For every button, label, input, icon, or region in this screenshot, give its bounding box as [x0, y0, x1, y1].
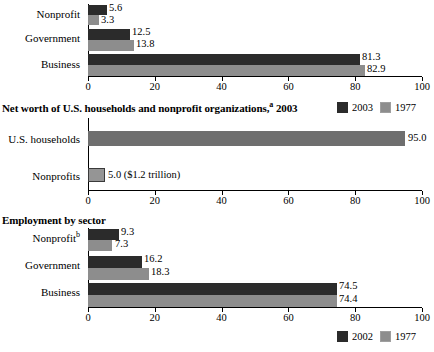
- chart1-bar-nonprofit-1977: [88, 15, 99, 25]
- chart1-value-government-2003: 12.5: [132, 26, 150, 37]
- chart3-value-government-1977: 18.3: [151, 266, 169, 277]
- chart2-plot-area: 95.0 5.0 ($1.2 trillion) 0 20 40 60 80 1…: [88, 100, 422, 213]
- chart1-ticklabel-100: 100: [402, 81, 434, 92]
- chart1-ticklabel-80: 80: [335, 81, 375, 92]
- chart3-bar-government-1977: [88, 268, 149, 280]
- chart2-ticklabel-80: 80: [335, 195, 375, 206]
- legend-item-2002: 2002: [337, 331, 373, 342]
- chart2-value-nonprofits: 5.0 ($1.2 trillion): [108, 169, 180, 180]
- chart1-value-government-1977: 13.8: [136, 38, 154, 49]
- chart1-bar-government-1977: [88, 40, 134, 51]
- chart-employment-by-sector: Employment by sector Nonprofitb Governme…: [0, 213, 434, 352]
- chart3-category-label-government: Government: [0, 259, 84, 271]
- legend-label-2002: 2002: [352, 331, 373, 342]
- chart1-value-business-2003: 81.3: [362, 51, 380, 62]
- legend-label-1977-employment: 1977: [395, 331, 416, 342]
- chart3-bar-business-1977: [88, 295, 337, 307]
- legend-item-1977-employment: 1977: [380, 331, 416, 342]
- chart2-ticklabel-40: 40: [202, 195, 242, 206]
- chart2-ticklabel-0: 0: [68, 195, 108, 206]
- chart3-category-footnote-marker: b: [76, 230, 80, 239]
- chart3-value-nonprofit-2002: 9.3: [121, 226, 134, 237]
- chart1-category-label-government: Government: [0, 32, 84, 44]
- chart1-value-business-1977: 82.9: [367, 63, 385, 74]
- chart3-ticklabel-100: 100: [402, 312, 434, 323]
- legend-swatch-dark-icon: [337, 331, 348, 342]
- chart3-ticklabel-20: 20: [135, 312, 175, 323]
- chart3-bar-government-2002: [88, 256, 142, 268]
- chart-sector-shares: Nonprofit Government Business 5.6 3.3 12…: [0, 0, 434, 100]
- chart1-category-label-business: Business: [0, 58, 84, 70]
- chart3-category-label-business: Business: [0, 286, 84, 298]
- chart1-ticklabel-60: 60: [268, 81, 308, 92]
- chart2-category-label-households: U.S. households: [0, 133, 84, 145]
- chart3-bar-nonprofit-1977: [88, 240, 112, 251]
- chart3-category-nonprofit-text: Nonprofit: [33, 232, 76, 244]
- chart2-ticklabel-20: 20: [135, 195, 175, 206]
- chart1-plot-area: 5.6 3.3 12.5 13.8 81.3 82.9 0 20 40 60 8…: [88, 0, 422, 100]
- chart3-x-axis: [88, 307, 422, 308]
- chart1-ticklabel-0: 0: [68, 81, 108, 92]
- chart-net-worth: Net worth of U.S. households and nonprof…: [0, 100, 434, 213]
- chart2-bar-us-households: [88, 131, 405, 146]
- chart1-value-nonprofit-1977: 3.3: [101, 14, 114, 25]
- chart1-bar-government-2003: [88, 29, 130, 40]
- chart3-value-business-2002: 74.5: [339, 280, 357, 291]
- chart2-ticklabel-60: 60: [268, 195, 308, 206]
- chart3-ticklabel-0: 0: [68, 312, 108, 323]
- chart3-category-label-nonprofit: Nonprofitb: [0, 232, 84, 244]
- chart3-ticklabel-60: 60: [268, 312, 308, 323]
- chart3-value-government-2002: 16.2: [144, 253, 162, 264]
- legend-2002-1977: 2002 1977: [337, 331, 416, 342]
- chart3-bar-business-2002: [88, 283, 337, 295]
- chart2-value-us-households: 95.0: [408, 132, 426, 143]
- chart1-category-label-nonprofit: Nonprofit: [0, 8, 84, 20]
- chart1-ticklabel-20: 20: [135, 81, 175, 92]
- legend-swatch-light-icon: [380, 331, 391, 342]
- chart1-ticklabel-40: 40: [202, 81, 242, 92]
- chart1-x-axis: [88, 76, 422, 77]
- chart3-ticklabel-40: 40: [202, 312, 242, 323]
- chart2-ticklabel-100: 100: [402, 195, 434, 206]
- chart1-bar-business-1977: [88, 65, 365, 76]
- chart2-bar-nonprofits: [88, 168, 105, 182]
- chart3-value-business-1977: 74.4: [339, 293, 357, 304]
- chart2-x-axis: [88, 190, 422, 191]
- chart1-bar-business-2003: [88, 54, 360, 65]
- chart3-ticklabel-80: 80: [335, 312, 375, 323]
- chart1-value-nonprofit-2003: 5.6: [109, 2, 122, 13]
- chart2-category-label-nonprofits: Nonprofits: [0, 170, 84, 182]
- chart3-value-nonprofit-1977: 7.3: [115, 238, 128, 249]
